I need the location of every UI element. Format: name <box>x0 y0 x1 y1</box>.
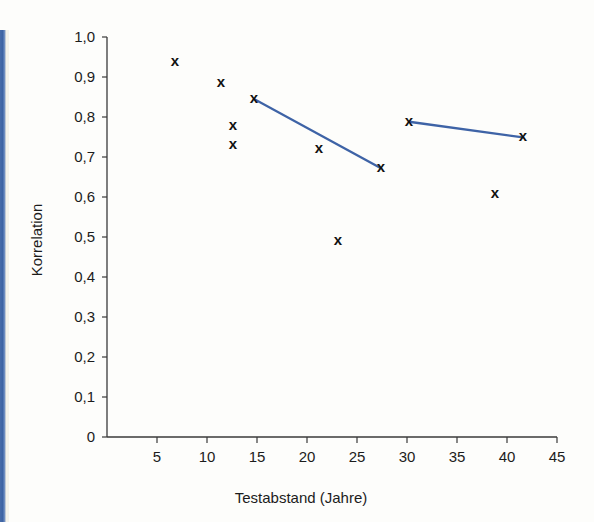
x-axis: 51015202530354045 <box>107 437 565 465</box>
data-point-marker: x <box>171 52 180 69</box>
x-tick-label: 20 <box>299 448 316 465</box>
y-tick-label: 0 <box>87 428 95 445</box>
y-tick-label: 0,4 <box>74 268 95 285</box>
data-point-marker: x <box>217 73 226 90</box>
x-tick-label: 25 <box>349 448 366 465</box>
data-point-marker: x <box>377 158 386 175</box>
data-point-marker: x <box>229 116 238 133</box>
y-tick-label: 0,2 <box>74 348 95 365</box>
data-point-marker: x <box>315 139 324 156</box>
x-tick-label: 35 <box>449 448 466 465</box>
y-tick-label: 0,5 <box>74 228 95 245</box>
data-point-marker: x <box>250 89 259 106</box>
y-tick-label: 1,0 <box>74 28 95 45</box>
trend-line <box>409 122 523 138</box>
y-axis-title: Korrelation <box>28 204 45 277</box>
x-tick-label: 45 <box>549 448 566 465</box>
x-tick-label: 15 <box>249 448 266 465</box>
data-point-marker: x <box>229 135 238 152</box>
trend-lines <box>254 99 523 168</box>
y-tick-label: 0,7 <box>74 148 95 165</box>
x-axis-title: Testabstand (Jahre) <box>235 489 368 506</box>
figure-page: 00,10,20,30,40,50,60,70,80,91,0 51015202… <box>0 0 594 522</box>
scatter-chart: 00,10,20,30,40,50,60,70,80,91,0 51015202… <box>0 0 594 522</box>
data-point-marker: x <box>334 231 343 248</box>
x-tick-label: 10 <box>199 448 216 465</box>
x-tick-label: 40 <box>499 448 516 465</box>
data-point-marker: x <box>405 112 414 129</box>
y-tick-label: 0,1 <box>74 388 95 405</box>
y-tick-label: 0,6 <box>74 188 95 205</box>
trend-line <box>254 99 381 168</box>
chart-svg: 00,10,20,30,40,50,60,70,80,91,0 51015202… <box>0 0 594 522</box>
y-axis: 00,10,20,30,40,50,60,70,80,91,0 <box>74 28 107 445</box>
y-tick-label: 0,3 <box>74 308 95 325</box>
data-point-marker: x <box>519 127 528 144</box>
y-tick-label: 0,9 <box>74 68 95 85</box>
x-tick-label: 5 <box>153 448 161 465</box>
y-tick-label: 0,8 <box>74 108 95 125</box>
x-tick-label: 30 <box>399 448 416 465</box>
data-point-marker: x <box>491 184 500 201</box>
